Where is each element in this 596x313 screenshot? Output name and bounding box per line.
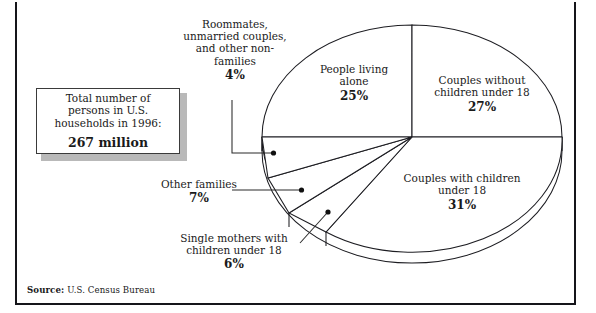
- source-note: Source: U.S. Census Bureau: [27, 285, 155, 295]
- label-people-living-alone: People living alone 25%: [306, 63, 402, 103]
- total-callout: Total number of persons in U.S. househol…: [36, 88, 182, 156]
- label-line-2: children under 18: [434, 86, 530, 98]
- source-label: Source:: [27, 285, 64, 295]
- label-line-2: children under 18: [186, 244, 282, 256]
- label-couples-without-children: Couples without children under 18 27%: [422, 74, 542, 114]
- leader-dot-roommates: [271, 150, 276, 155]
- label-percent: 7%: [140, 192, 258, 204]
- label-line-4: families: [214, 55, 256, 67]
- callout-total-value: 267 million: [68, 135, 148, 150]
- label-line-2: unmarried couples,: [183, 30, 286, 42]
- label-roommates-nonfamilies: Roommates, unmarried couples, and other …: [162, 18, 308, 81]
- label-line-1: Other families: [161, 178, 237, 190]
- source-value: U.S. Census Bureau: [67, 285, 155, 295]
- label-percent: 4%: [162, 69, 308, 81]
- label-percent: 25%: [306, 90, 402, 102]
- callout-line-2: persons in U.S.: [68, 104, 148, 116]
- label-line-1: Couples without: [439, 74, 526, 86]
- label-line-1: Single mothers with: [180, 232, 288, 244]
- label-line-2: under 18: [438, 184, 486, 196]
- label-percent: 6%: [160, 258, 308, 270]
- callout-box: Total number of persons in U.S. househol…: [36, 88, 180, 154]
- label-percent: 27%: [422, 101, 542, 113]
- label-line-1: People living: [320, 63, 388, 75]
- callout-line-1: Total number of: [66, 92, 151, 104]
- label-line-3: and other non-: [196, 42, 274, 54]
- leader-dot-single-mothers: [325, 209, 330, 214]
- chart-figure: Total number of persons in U.S. househol…: [0, 0, 596, 313]
- label-line-1: Couples with children: [404, 172, 521, 184]
- callout-line-3: households in 1996:: [54, 117, 161, 129]
- label-percent: 31%: [392, 199, 532, 211]
- label-other-families: Other families 7%: [140, 178, 258, 204]
- label-line-2: alone: [340, 75, 369, 87]
- label-line-1: Roommates,: [202, 18, 268, 30]
- label-single-mothers: Single mothers with children under 18 6%: [160, 232, 308, 271]
- label-couples-with-children: Couples with children under 18 31%: [392, 172, 532, 212]
- leader-dot-other-families: [299, 187, 304, 192]
